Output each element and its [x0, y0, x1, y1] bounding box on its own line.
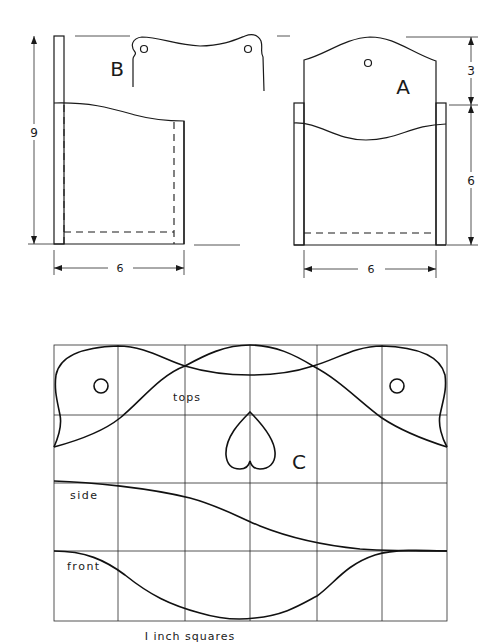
- top-hole-left: [94, 379, 108, 393]
- scale-caption: I inch squares: [145, 630, 236, 643]
- view-b-back-board: [54, 36, 64, 244]
- view-a: A 3 6 6: [294, 37, 479, 278]
- pattern-tops: tops C: [54, 345, 447, 474]
- view-a-label: A: [396, 75, 410, 99]
- view-b-top-fragment: [132, 35, 264, 91]
- heart-cutout: [226, 412, 275, 469]
- top-a-outline: [54, 345, 447, 447]
- label-side: side: [70, 489, 99, 502]
- label-tops: tops: [173, 391, 201, 404]
- view-b-label: B: [110, 57, 124, 81]
- view-a-hanging-hole: [365, 60, 372, 67]
- dimension-6-a-height: 6: [467, 174, 475, 188]
- view-b: 9 6 B: [28, 35, 290, 275]
- top-hole-right: [390, 379, 404, 393]
- view-b-hanging-hole-2: [245, 46, 252, 53]
- label-front: front: [67, 560, 101, 573]
- view-b-hanging-hole: [141, 46, 148, 53]
- pattern-front-curve: [54, 550, 447, 619]
- dimension-6-a-width: 6: [368, 263, 375, 276]
- dimension-6-b: 6: [117, 262, 124, 275]
- view-a-back-board: [304, 37, 436, 245]
- pattern-grid: [54, 345, 447, 621]
- top-b-outline: [54, 346, 447, 447]
- view-b-side-panel: [54, 103, 184, 244]
- view-a-front-panel-top: [294, 123, 446, 140]
- pattern-label-c: C: [292, 450, 306, 474]
- dimension-9: 9: [30, 126, 38, 140]
- pattern-side-curve: [54, 481, 447, 551]
- dimension-3: 3: [467, 64, 475, 78]
- pattern-drawing: 9 6 B A: [0, 0, 482, 644]
